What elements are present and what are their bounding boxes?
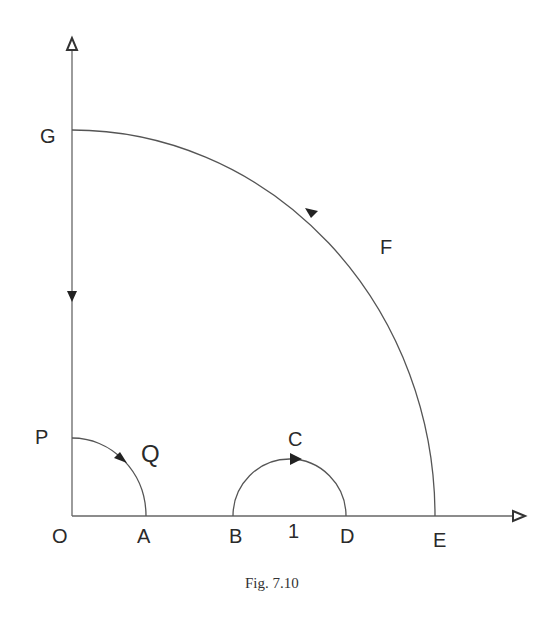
x-axis-arrow-icon	[513, 511, 525, 521]
label-D: D	[340, 525, 354, 547]
label-one: 1	[288, 520, 299, 542]
arc-EFG	[72, 130, 435, 516]
label-Q: Q	[141, 440, 160, 467]
label-E: E	[433, 529, 446, 551]
label-G: G	[40, 125, 56, 147]
label-A: A	[137, 525, 151, 547]
arc-BCD	[233, 459, 346, 516]
figure-caption: Fig. 7.10	[245, 575, 299, 591]
y-axis-arrow-icon	[67, 38, 77, 50]
label-O: O	[52, 525, 68, 547]
contour-diagram: G F P Q C O A B 1 D E Fig. 7.10	[0, 0, 550, 618]
label-C: C	[288, 428, 302, 450]
label-P: P	[35, 426, 48, 448]
arc-C-arrow-icon	[290, 453, 302, 465]
arc-F-arrow-icon	[305, 208, 318, 218]
label-B: B	[229, 525, 242, 547]
label-F: F	[380, 236, 392, 258]
down-arrow-icon	[67, 291, 77, 302]
arc-PQA	[72, 438, 146, 516]
